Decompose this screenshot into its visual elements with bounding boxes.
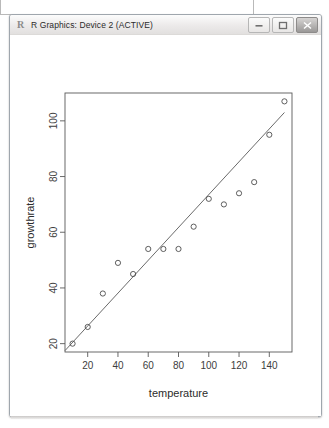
data-point <box>221 202 226 207</box>
y-tick-label: 60 <box>49 226 60 238</box>
window-shadow <box>11 416 318 419</box>
minimize-icon <box>254 21 264 29</box>
data-point <box>282 99 287 104</box>
data-point <box>236 191 241 196</box>
close-button[interactable] <box>296 17 318 33</box>
r-graphics-window[interactable]: R R Graphics: Device 2 (ACTIVE) 20406080… <box>9 14 322 417</box>
x-tick-label: 140 <box>261 360 278 371</box>
data-point <box>146 246 151 251</box>
y-tick-label: 40 <box>49 282 60 294</box>
x-axis-label: temperature <box>149 387 208 399</box>
y-tick-label: 100 <box>49 112 60 129</box>
x-tick-label: 80 <box>173 360 185 371</box>
data-point <box>206 196 211 201</box>
x-tick-label: 40 <box>112 360 124 371</box>
background-panel <box>0 0 254 15</box>
data-point <box>267 132 272 137</box>
y-tick-label: 20 <box>49 338 60 350</box>
window-controls[interactable] <box>248 17 318 33</box>
x-tick-label: 120 <box>231 360 248 371</box>
data-point <box>176 246 181 251</box>
scatter-plot: 2040608010012014020406080100temperatureg… <box>10 35 321 416</box>
data-point <box>131 271 136 276</box>
window-title: R Graphics: Device 2 (ACTIVE) <box>31 20 153 30</box>
data-point <box>252 180 257 185</box>
maximize-icon <box>278 21 288 30</box>
r-logo-icon: R <box>15 19 26 30</box>
plot-canvas: 2040608010012014020406080100temperatureg… <box>10 35 321 416</box>
close-icon <box>302 21 313 30</box>
data-point <box>100 291 105 296</box>
data-point <box>161 246 166 251</box>
maximize-button[interactable] <box>272 17 294 33</box>
data-point <box>85 324 90 329</box>
x-tick-label: 100 <box>200 360 217 371</box>
minimize-button[interactable] <box>248 17 270 33</box>
y-axis-label: growthrate <box>24 197 36 249</box>
y-tick-label: 80 <box>49 171 60 183</box>
data-point <box>191 224 196 229</box>
x-tick-label: 20 <box>82 360 94 371</box>
window-titlebar[interactable]: R R Graphics: Device 2 (ACTIVE) <box>10 15 321 35</box>
x-tick-label: 60 <box>143 360 155 371</box>
data-point <box>115 260 120 265</box>
regression-line <box>65 112 284 350</box>
